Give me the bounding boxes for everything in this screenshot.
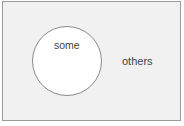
set-circle bbox=[32, 26, 102, 96]
inside-set-label: some bbox=[54, 40, 80, 51]
outside-set-label: others bbox=[122, 56, 153, 67]
